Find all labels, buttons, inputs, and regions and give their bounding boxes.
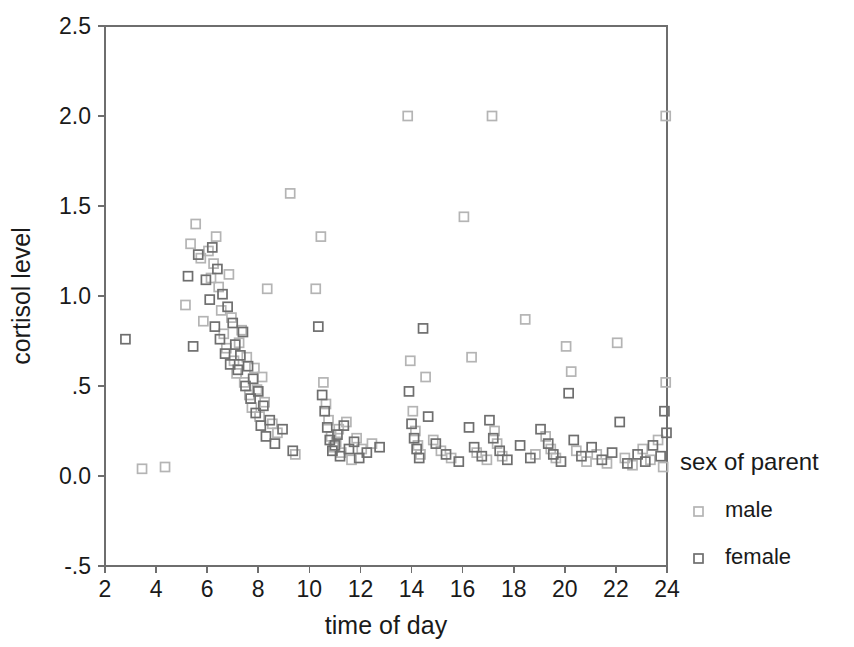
- data-point: [194, 250, 203, 259]
- data-point: [161, 463, 170, 472]
- data-point: [661, 378, 670, 387]
- data-point: [256, 421, 265, 430]
- data-point: [181, 301, 190, 310]
- data-point: [217, 306, 226, 315]
- data-point: [224, 270, 233, 279]
- y-axis-title: cortisol level: [7, 227, 35, 365]
- data-point: [516, 441, 525, 450]
- data-point: [138, 464, 147, 473]
- data-point: [404, 387, 413, 396]
- plot-frame: [105, 26, 667, 566]
- data-point: [546, 445, 555, 454]
- data-point: [121, 335, 130, 344]
- series-female: [121, 243, 671, 468]
- legend-swatch-male: [694, 507, 703, 516]
- data-points-layer: [121, 112, 671, 474]
- data-point: [613, 338, 622, 347]
- legend: sex of parentmalefemale: [680, 448, 819, 569]
- data-point: [465, 423, 474, 432]
- y-tick-label: 2.0: [59, 103, 91, 129]
- data-point: [212, 232, 221, 241]
- legend-label-male[interactable]: male: [725, 497, 773, 522]
- data-point: [318, 391, 327, 400]
- data-point: [261, 432, 270, 441]
- data-point: [521, 315, 530, 324]
- data-point: [314, 322, 323, 331]
- data-point: [258, 373, 267, 382]
- plot-border: [105, 26, 667, 566]
- y-tick-label: .5: [72, 373, 91, 399]
- data-point: [268, 419, 277, 428]
- x-tick-label: 6: [201, 576, 214, 602]
- data-point: [265, 416, 274, 425]
- data-point: [608, 448, 617, 457]
- y-tick-label: 1.5: [59, 193, 91, 219]
- data-point: [567, 367, 576, 376]
- x-tick-label: 12: [348, 576, 374, 602]
- x-tick-label: 10: [297, 576, 323, 602]
- data-point: [291, 450, 300, 459]
- x-tick-label: 16: [450, 576, 476, 602]
- x-tick-label: 2: [99, 576, 112, 602]
- data-point: [406, 356, 415, 365]
- data-point: [485, 416, 494, 425]
- x-tick-label: 8: [252, 576, 265, 602]
- data-point: [656, 452, 665, 461]
- data-point: [421, 373, 430, 382]
- data-point: [562, 342, 571, 351]
- plot-canvas: 2.52.01.51.0.50.0-.5 2468101214161820222…: [0, 0, 854, 647]
- data-point: [424, 412, 433, 421]
- data-point: [429, 436, 438, 445]
- data-point: [403, 112, 412, 121]
- data-point: [189, 342, 198, 351]
- x-axis-title: time of day: [325, 611, 448, 639]
- x-tick-label: 4: [150, 576, 163, 602]
- data-point: [270, 439, 279, 448]
- x-tick-label: 14: [399, 576, 425, 602]
- legend-title: sex of parent: [680, 448, 819, 475]
- data-point: [210, 322, 219, 331]
- data-point: [408, 407, 417, 416]
- data-point: [223, 302, 232, 311]
- data-point: [199, 317, 208, 326]
- x-tick-label: 24: [654, 576, 680, 602]
- data-point: [316, 232, 325, 241]
- x-tick-label: 22: [603, 576, 629, 602]
- data-point: [263, 284, 272, 293]
- data-point: [661, 112, 670, 121]
- y-axis-ticks: 2.52.01.51.0.50.0-.5: [59, 13, 105, 579]
- x-tick-label: 18: [501, 576, 527, 602]
- data-point: [184, 272, 193, 281]
- data-point: [311, 284, 320, 293]
- x-tick-label: 20: [552, 576, 578, 602]
- scatter-plot-figure: 2.52.01.51.0.50.0-.5 2468101214161820222…: [0, 0, 854, 647]
- data-point: [459, 212, 468, 221]
- data-point: [205, 295, 214, 304]
- data-point: [615, 418, 624, 427]
- data-point: [191, 220, 200, 229]
- data-point: [288, 446, 297, 455]
- data-point: [419, 324, 428, 333]
- data-point: [319, 378, 328, 387]
- data-point: [488, 112, 497, 121]
- data-point: [569, 436, 578, 445]
- y-tick-label: -.5: [64, 553, 91, 579]
- legend-swatch-female: [694, 554, 703, 563]
- y-tick-label: 0.0: [59, 463, 91, 489]
- y-tick-label: 1.0: [59, 283, 91, 309]
- data-point: [352, 434, 361, 443]
- data-point: [470, 443, 479, 452]
- data-point: [564, 389, 573, 398]
- data-point: [186, 239, 195, 248]
- legend-label-female[interactable]: female: [725, 544, 791, 569]
- x-axis-ticks: 24681012141618202224: [99, 566, 680, 602]
- data-point: [467, 353, 476, 362]
- y-tick-label: 2.5: [59, 13, 91, 39]
- data-point: [286, 189, 295, 198]
